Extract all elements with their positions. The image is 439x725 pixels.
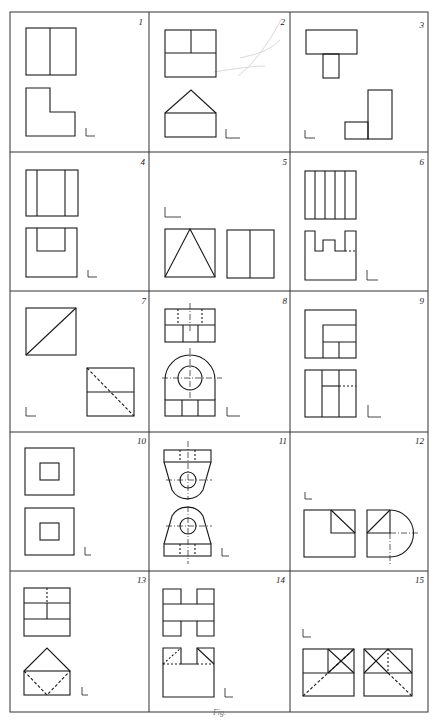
axis-mark-icon [305,492,312,499]
problem-number-5: 5 [283,157,288,167]
problem-7-drawing [26,308,134,416]
problem-number-6: 6 [420,157,425,167]
problem-4-drawing [26,170,97,277]
problem-number-10: 10 [137,436,147,446]
problem-number-11: 11 [279,436,287,446]
axis-mark-icon [82,687,88,695]
problem-12-drawing [304,492,420,565]
problem-10-drawing [25,448,91,555]
problem-number-1: 1 [139,17,144,27]
problem-number-14: 14 [276,575,286,585]
problem-11-drawing [164,441,229,564]
problem-15-drawing [303,629,412,696]
axis-mark-icon [303,629,311,637]
problem-13-drawing [24,588,88,695]
axis-mark-icon [26,407,36,416]
axis-mark-icon [367,270,378,280]
problem-number-4: 4 [141,157,146,167]
problem-2-drawing [165,30,240,138]
problem-number-15: 15 [415,575,425,585]
figure-caption: Fig. [0,708,439,717]
problem-8-drawing [162,303,240,416]
problem-3-drawing [305,30,392,139]
axis-mark-icon [165,207,181,217]
axis-mark-icon [222,548,229,556]
axis-mark-icon [88,270,97,277]
problem-number-7: 7 [142,296,147,306]
axis-mark-icon [227,407,240,416]
problem-1-drawing [26,28,95,136]
axis-mark-icon [226,129,240,138]
problem-5-drawing [165,207,274,278]
problem-9-drawing [305,310,381,417]
problem-number-8: 8 [283,296,288,306]
problem-number-12: 12 [415,436,425,446]
axis-mark-icon [368,405,381,417]
axis-mark-icon [86,128,95,136]
problem-number-13: 13 [137,575,147,585]
drawing-sheet: 1 2 3 4 5 6 7 8 9 10 11 12 13 14 15 [0,0,439,725]
problem-14-drawing [163,589,233,697]
axis-mark-icon [85,547,91,555]
problem-number-9: 9 [420,296,425,306]
grid-lines [10,12,428,712]
problem-number-2: 2 [281,17,286,27]
axis-mark-icon [305,130,315,138]
axis-mark-icon [225,688,233,697]
pencil-marks [214,18,282,76]
problem-6-drawing [305,171,378,280]
problem-number-3: 3 [419,20,425,30]
